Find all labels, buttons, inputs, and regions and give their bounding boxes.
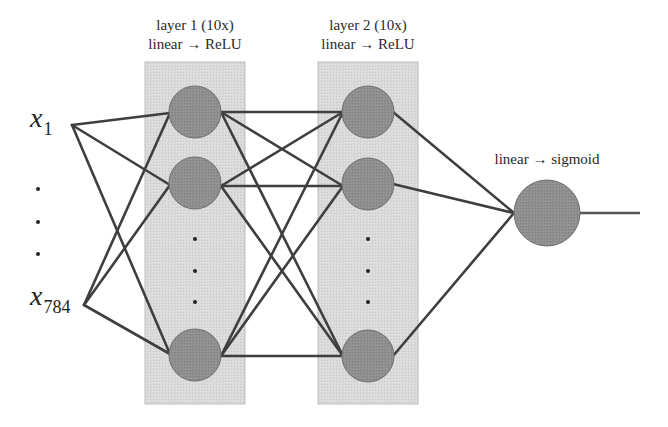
layer-1-node (169, 157, 221, 209)
neural-network-diagram (0, 0, 668, 427)
input-ellipsis-dot (36, 220, 40, 224)
layer-1-activation: linear → ReLU (125, 35, 265, 54)
input-ellipsis-dot (36, 252, 40, 256)
layer-1-ellipsis-dot (193, 300, 197, 304)
layer-2-ellipsis-dot (366, 269, 370, 273)
layer-2-label: layer 2 (10x) linear → ReLU (298, 16, 438, 54)
output-activation: linear → sigmoid (472, 150, 622, 169)
layer-1-ellipsis-dot (193, 269, 197, 273)
layer-2-node (342, 158, 394, 210)
input-ellipsis-dot (36, 187, 40, 191)
layer-2-ellipsis-dot (366, 237, 370, 241)
output-node (514, 180, 580, 246)
layer-1-title: layer 1 (10x) (125, 16, 265, 35)
layer-2-node (342, 86, 394, 138)
input-x784-base: x (30, 280, 42, 311)
layer-2-activation: linear → ReLU (298, 35, 438, 54)
layer-1-label: layer 1 (10x) linear → ReLU (125, 16, 265, 54)
layer-2-title: layer 2 (10x) (298, 16, 438, 35)
layer-1-node (169, 329, 221, 381)
layer-1-ellipsis-dot (193, 237, 197, 241)
layer-1-node (169, 86, 221, 138)
input-x784-label: x784 (30, 282, 70, 321)
output-label: linear → sigmoid (472, 150, 622, 169)
input-x1-label: x1 (30, 104, 52, 143)
input-x1-sub: 1 (43, 119, 52, 139)
input-x1-base: x (30, 102, 42, 133)
layer-2-ellipsis-dot (366, 300, 370, 304)
input-ellipsis (36, 187, 40, 256)
input-x784-sub: 784 (43, 297, 70, 317)
layer-2-node (342, 330, 394, 382)
